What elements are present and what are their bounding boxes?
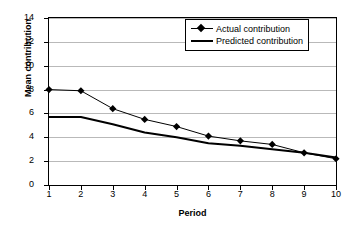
x-axis-tick-mark bbox=[272, 186, 273, 190]
x-axis-tick-label: 1 bbox=[37, 190, 61, 199]
y-axis-tick-label: 8 bbox=[4, 85, 34, 94]
series-line-predicted bbox=[49, 117, 336, 158]
legend-item-actual: Actual contribution bbox=[190, 23, 303, 35]
diamond-line-marker-icon bbox=[190, 23, 214, 35]
x-axis-tick-mark bbox=[208, 186, 209, 190]
x-axis-tick-mark bbox=[336, 186, 337, 190]
data-point-marker bbox=[109, 105, 116, 112]
series-line-actual bbox=[49, 90, 336, 159]
y-axis-tick-label: 10 bbox=[4, 61, 34, 70]
legend-label-actual: Actual contribution bbox=[214, 24, 290, 34]
x-axis-tick-mark bbox=[240, 186, 241, 190]
data-point-marker bbox=[141, 116, 148, 123]
x-axis-tick-mark bbox=[304, 186, 305, 190]
x-axis-tick-label: 5 bbox=[165, 190, 189, 199]
data-point-marker bbox=[173, 123, 180, 130]
x-axis-tick-label: 7 bbox=[228, 190, 252, 199]
y-axis-tick-label: 14 bbox=[4, 13, 34, 22]
x-axis-tick-label: 10 bbox=[324, 190, 347, 199]
x-axis-tick-mark bbox=[81, 186, 82, 190]
y-axis-tick-label: 2 bbox=[4, 156, 34, 165]
x-axis-tick-label: 2 bbox=[69, 190, 93, 199]
legend-label-predicted: Predicted contribution bbox=[214, 36, 303, 46]
y-axis-tick-label: 12 bbox=[4, 37, 34, 46]
x-axis-tick-label: 6 bbox=[196, 190, 220, 199]
x-axis-tick-label: 4 bbox=[133, 190, 157, 199]
x-axis-tick-mark bbox=[113, 186, 114, 190]
x-axis-tick-label: 8 bbox=[260, 190, 284, 199]
data-point-marker bbox=[205, 132, 212, 139]
x-axis-tick-label: 3 bbox=[101, 190, 125, 199]
data-point-marker bbox=[269, 141, 276, 148]
y-axis-tick-label: 6 bbox=[4, 108, 34, 117]
x-axis-tick-mark bbox=[145, 186, 146, 190]
x-axis-title: Period bbox=[48, 208, 337, 218]
line-marker-icon bbox=[190, 35, 214, 47]
data-point-marker bbox=[45, 86, 52, 93]
x-axis-tick-mark bbox=[177, 186, 178, 190]
x-axis-tick-mark bbox=[49, 186, 50, 190]
y-axis-tick-label: 4 bbox=[4, 132, 34, 141]
data-point-marker bbox=[77, 87, 84, 94]
chart-container: Mean contribution 02468101214 1234567891… bbox=[0, 0, 347, 229]
y-axis-tick-label: 0 bbox=[4, 180, 34, 189]
x-axis-tick-label: 9 bbox=[292, 190, 316, 199]
chart-legend: Actual contribution Predicted contributi… bbox=[185, 19, 309, 51]
data-point-marker bbox=[237, 137, 244, 144]
legend-item-predicted: Predicted contribution bbox=[190, 35, 303, 47]
